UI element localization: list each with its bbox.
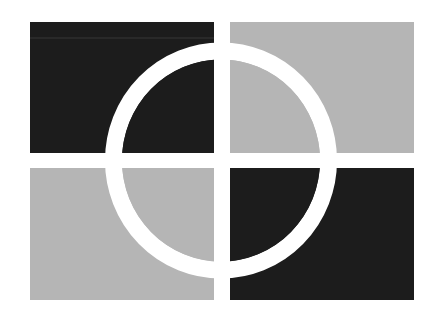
quadrant-ring-logo bbox=[0, 0, 442, 322]
ring-inner-fills bbox=[122, 60, 320, 262]
ring bbox=[114, 51, 329, 270]
